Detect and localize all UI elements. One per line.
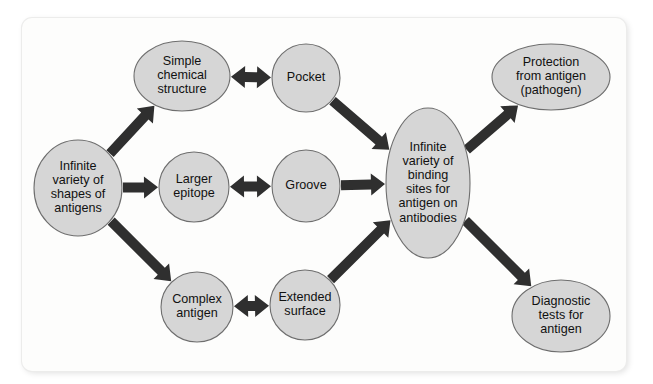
edge-antigen-to-larger	[123, 176, 158, 198]
edge-binding-to-protection	[463, 105, 518, 153]
nodes-layer: Infinitevariety ofshapes ofantigensSimpl…	[34, 41, 610, 352]
node-complex-antigen[interactable]: Complexantigen	[161, 272, 233, 342]
edge-complex-to-extended	[234, 295, 269, 317]
node-label-protection: Protectionfrom antigen(pathogen)	[516, 55, 586, 97]
edge-antigen-to-complex	[108, 218, 172, 282]
node-binding-sites[interactable]: Infinitevariety ofbindingsites forantige…	[386, 108, 470, 258]
edge-larger-to-groove	[230, 175, 271, 197]
edge-simple-to-pocket	[231, 66, 271, 88]
node-simple-chemical-structure[interactable]: Simplechemicalstructure	[134, 41, 230, 111]
node-label-pocket: Pocket	[287, 70, 326, 84]
node-label-groove: Groove	[285, 178, 326, 192]
edge-antigen-to-simple	[106, 106, 154, 157]
figure-root: Infinitevariety ofshapes ofantigensSimpl…	[0, 0, 653, 384]
node-label-diagnostic-tests: Diagnostictests forantigen	[532, 294, 591, 336]
edge-pocket-to-binding	[329, 97, 389, 150]
node-diagnostic-tests[interactable]: Diagnostictests forantigen	[512, 280, 610, 352]
edge-binding-to-diagnostic	[462, 217, 531, 286]
node-larger-epitope[interactable]: Largerepitope	[159, 152, 229, 222]
node-antigen-shapes[interactable]: Infinitevariety ofshapes ofantigens	[34, 140, 122, 236]
node-groove[interactable]: Groove	[272, 150, 340, 222]
node-protection[interactable]: Protectionfrom antigen(pathogen)	[492, 44, 610, 110]
edge-extended-to-binding	[327, 220, 390, 283]
node-label-larger-epitope: Largerepitope	[173, 172, 214, 200]
flowchart-diagram: Infinitevariety ofshapes ofantigensSimpl…	[0, 0, 653, 384]
node-label-complex-antigen: Complexantigen	[172, 292, 222, 320]
node-extended-surface[interactable]: Extendedsurface	[270, 270, 340, 340]
node-pocket[interactable]: Pocket	[272, 44, 340, 112]
edge-groove-to-binding	[341, 173, 385, 195]
node-label-simple-chemical-structure: Simplechemicalstructure	[157, 54, 207, 96]
node-label-extended-surface: Extendedsurface	[278, 290, 331, 318]
